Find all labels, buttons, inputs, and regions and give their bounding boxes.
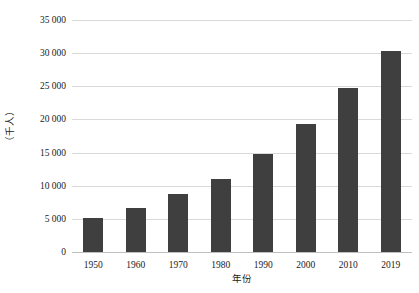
bar[interactable] — [381, 51, 401, 253]
x-tick-slot: 1960 — [115, 254, 158, 270]
bar-slot — [327, 20, 370, 252]
x-axis-tick-label: 1970 — [169, 260, 188, 270]
y-axis-tick-label: 15 000 — [40, 148, 66, 158]
bar[interactable] — [83, 218, 103, 252]
y-axis-tick-label: 35 000 — [40, 15, 66, 25]
x-axis-tick-label: 1950 — [84, 260, 103, 270]
y-axis-tick-label: 30 000 — [40, 48, 66, 58]
y-axis-title: （千人） — [0, 0, 18, 252]
x-tick-slot: 1970 — [157, 254, 200, 270]
y-axis-tick-label: 5 000 — [45, 214, 66, 224]
bar-slot — [370, 20, 413, 252]
y-axis-tick-label: 10 000 — [40, 181, 66, 191]
bar[interactable] — [211, 179, 231, 252]
plot-area — [72, 20, 412, 252]
bar[interactable] — [338, 88, 358, 252]
x-tick-slot: 2010 — [327, 254, 370, 270]
x-axis-tick-label: 1980 — [211, 260, 230, 270]
bar-slot — [115, 20, 158, 252]
y-axis-tick-label: 20 000 — [40, 114, 66, 124]
x-axis-tick-label: 2010 — [339, 260, 358, 270]
bar-slot — [242, 20, 285, 252]
x-tick-slot: 1990 — [242, 254, 285, 270]
x-axis-title: 年份 — [72, 271, 412, 285]
x-tick-slot: 2019 — [370, 254, 413, 270]
bar-slot — [157, 20, 200, 252]
bar[interactable] — [168, 194, 188, 252]
x-axis-tick-label: 1960 — [126, 260, 145, 270]
x-axis-tick-label: 1990 — [254, 260, 273, 270]
x-tick-slot: 1950 — [72, 254, 115, 270]
bar-slot — [285, 20, 328, 252]
gridline — [72, 252, 412, 253]
bar-slot — [200, 20, 243, 252]
x-axis-tick-label: 2000 — [296, 260, 315, 270]
bar-slot — [72, 20, 115, 252]
y-axis-tick-labels: 05 00010 00015 00020 00025 00030 00035 0… — [18, 0, 70, 293]
bar[interactable] — [296, 124, 316, 252]
y-axis-tick-label: 0 — [61, 247, 66, 257]
bars-layer — [72, 20, 412, 252]
x-tick-slot: 2000 — [285, 254, 328, 270]
x-axis-tick-label: 2019 — [381, 260, 400, 270]
bar[interactable] — [126, 208, 146, 252]
bar-chart: （千人） 05 00010 00015 00020 00025 00030 00… — [0, 0, 419, 293]
x-tick-slot: 1980 — [200, 254, 243, 270]
y-axis-title-label: （千人） — [2, 106, 16, 146]
bar[interactable] — [253, 154, 273, 252]
y-axis-tick-label: 25 000 — [40, 81, 66, 91]
x-axis-tick-labels: 19501960197019801990200020102019 — [72, 254, 412, 270]
